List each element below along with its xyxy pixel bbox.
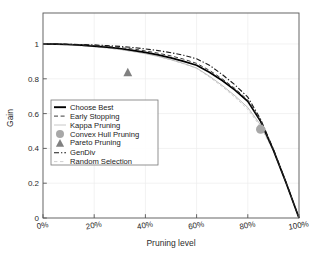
legend-label: GenDiv	[70, 148, 96, 157]
legend-label: Convex Hull Pruning	[70, 130, 139, 139]
y-tick-label: 0.6	[28, 110, 40, 119]
x-tick-label: 80%	[239, 220, 256, 232]
y-axis-tick-labels: 0 0.2 0.4 0.6 0.8 1	[28, 40, 40, 223]
chart-legend: Choose Best Early Stopping Kappa Pruning…	[51, 100, 158, 166]
x-axis-tick-labels: 0% 20% 40% 60% 80% 100%	[36, 219, 309, 231]
legend-label: Choose Best	[70, 103, 114, 112]
y-tick-label: 0.4	[28, 144, 40, 153]
legend-label: Kappa Pruning	[70, 121, 120, 130]
legend-label: Pareto Pruning	[70, 138, 121, 147]
legend-label: Random Selection	[70, 157, 132, 166]
y-tick-label: 0	[35, 214, 40, 223]
x-tick-label: 40%	[136, 220, 153, 232]
x-tick-label: 20%	[85, 220, 102, 232]
y-tick-label: 0.8	[28, 75, 40, 84]
x-axis-title: Pruning level	[146, 238, 195, 248]
convex-hull-pruning-marker	[256, 125, 265, 134]
legend-swatch-circle	[56, 130, 64, 138]
y-tick-label: 0.2	[28, 179, 40, 188]
chart-figure: 0% 20% 40% 60% 80% 100% 0 0.2 0.4 0.6 0.…	[0, 0, 323, 257]
x-tick-label: 100%	[288, 219, 310, 231]
legend-label: Early Stopping	[70, 112, 119, 121]
gain-vs-pruning-level-chart: 0% 20% 40% 60% 80% 100% 0 0.2 0.4 0.6 0.…	[0, 0, 323, 257]
y-tick-label: 1	[35, 40, 40, 49]
y-axis-title: Gain	[5, 109, 15, 127]
x-tick-label: 60%	[187, 220, 204, 232]
